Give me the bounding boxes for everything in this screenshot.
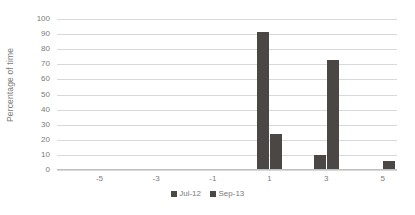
legend-label: Jul-12 [179,190,201,198]
bar [270,134,282,169]
y-axis-tick-label: 40 [41,106,50,114]
y-axis-tick-label: 10 [41,151,50,159]
plot-area [57,19,397,170]
y-axis-title: Percentage of time [2,0,18,170]
y-axis-tick-label: 90 [41,30,50,38]
bar-chart: Percentage of time 100908070605040302010… [0,0,415,215]
x-axis-tick-label: 3 [324,174,328,183]
x-axis-tick-label: -3 [153,174,160,183]
chart-legend: Jul-12Sep-13 [0,190,415,198]
bars-layer [57,19,397,170]
bar [383,161,395,169]
x-axis-tick-labels: -5-3-1135 [57,172,397,186]
legend-swatch-icon [210,191,216,197]
y-axis-tick-label: 30 [41,121,50,129]
x-axis-tick-label: -1 [209,174,216,183]
legend-item[interactable]: Jul-12 [171,190,201,198]
y-axis-tick-label: 20 [41,136,50,144]
y-axis-tick-label: 50 [41,91,50,99]
y-axis-tick-label: 100 [37,15,50,23]
x-axis-tick-label: 1 [267,174,271,183]
y-axis-tick-labels: 1009080706050403020100 [18,19,54,170]
x-axis-tick-label: 5 [381,174,385,183]
legend-label: Sep-13 [219,190,245,198]
y-axis-tick-label: 70 [41,60,50,68]
y-axis-title-label: Percentage of time [5,48,15,122]
legend-swatch-icon [171,191,177,197]
y-axis-tick-label: 60 [41,75,50,83]
bar [257,32,269,169]
gridline [57,170,397,171]
y-axis-tick-label: 0 [46,166,50,174]
x-axis-tick-label: -5 [96,174,103,183]
bar [314,155,326,169]
legend-item[interactable]: Sep-13 [210,190,244,198]
y-axis-tick-label: 80 [41,45,50,53]
bar [327,60,339,169]
